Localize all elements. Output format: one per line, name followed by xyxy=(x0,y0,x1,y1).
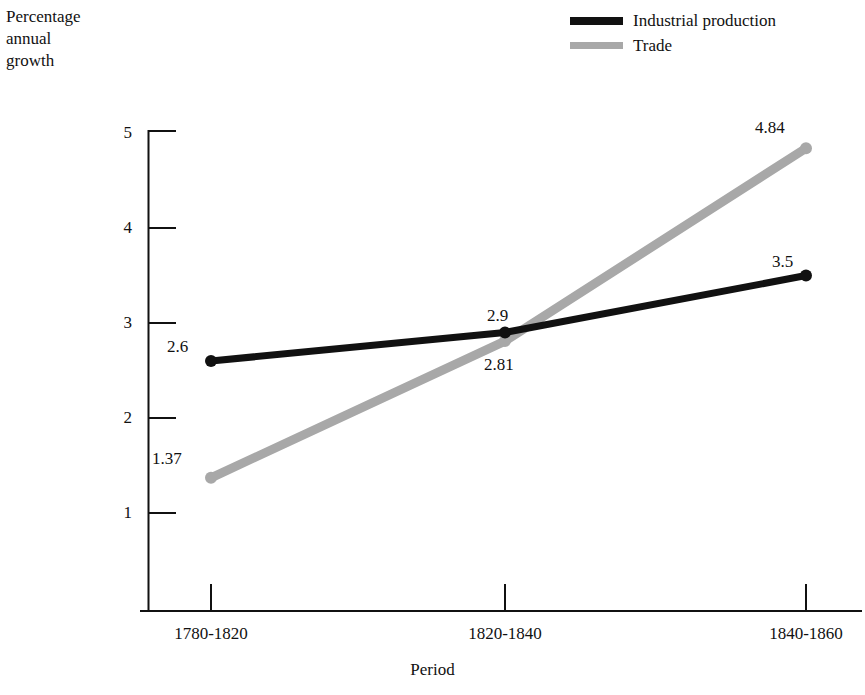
data-point xyxy=(499,327,511,339)
data-label-industrial-2: 2.9 xyxy=(487,306,508,326)
data-label-trade-2: 2.81 xyxy=(484,355,514,375)
series-markers-trade xyxy=(205,142,812,484)
data-point xyxy=(205,355,217,367)
data-point xyxy=(800,270,812,282)
data-label-trade-1: 1.37 xyxy=(152,449,182,469)
data-label-industrial-1: 2.6 xyxy=(167,337,188,357)
chart-figure: Percentage annual growth Industrial prod… xyxy=(0,0,865,695)
x-axis-title: Period xyxy=(0,659,865,681)
data-point xyxy=(205,472,217,484)
chart-plot-area xyxy=(0,0,865,695)
data-label-trade-3: 4.84 xyxy=(755,118,785,138)
series-line-trade xyxy=(211,148,806,478)
series-line-industrial-production xyxy=(211,276,806,362)
data-point xyxy=(800,142,812,154)
data-label-industrial-3: 3.5 xyxy=(772,252,793,272)
